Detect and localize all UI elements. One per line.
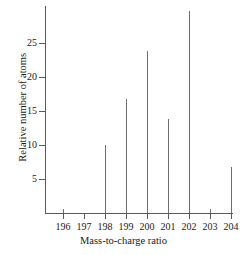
y-tick-10 [39, 145, 45, 146]
peak-204 [231, 167, 232, 213]
x-tick-199 [126, 213, 127, 219]
peak-198 [105, 145, 106, 213]
x-axis-line [45, 213, 233, 214]
x-axis-title: Mass-to-charge ratio [0, 236, 247, 247]
peak-196 [63, 209, 64, 213]
x-tick-200 [147, 213, 148, 219]
mass-spectrum-chart: 25 20 15 10 5 196 197 198 199 200 201 20… [0, 0, 247, 255]
y-axis-line [45, 6, 46, 214]
x-tick-label-204: 204 [218, 222, 244, 232]
x-tick-203 [210, 213, 211, 219]
y-tick-5 [39, 179, 45, 180]
peak-203 [210, 209, 211, 213]
x-tick-196 [63, 213, 64, 219]
y-tick-20 [39, 77, 45, 78]
x-tick-198 [105, 213, 106, 219]
peak-200 [147, 51, 148, 213]
peak-201 [168, 119, 169, 213]
x-tick-197 [84, 213, 85, 219]
peak-199 [126, 99, 127, 213]
x-tick-202 [189, 213, 190, 219]
x-tick-204 [231, 213, 232, 219]
y-tick-25 [39, 43, 45, 44]
y-axis-title: Relative number of atoms [18, 22, 29, 192]
plot-area: 25 20 15 10 5 196 197 198 199 200 201 20… [0, 0, 247, 255]
y-tick-15 [39, 111, 45, 112]
peak-202 [189, 11, 190, 213]
x-tick-201 [168, 213, 169, 219]
